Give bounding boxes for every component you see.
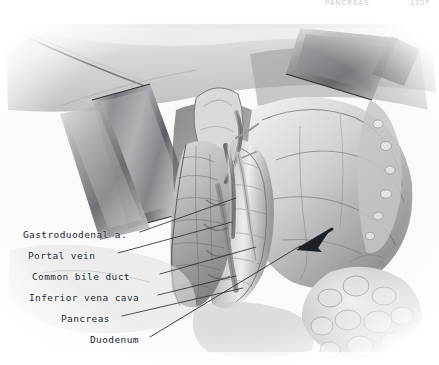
running-head-page-number: 1207 <box>410 0 430 7</box>
running-head-title: PANCREAS <box>325 0 369 7</box>
plate-top-fade <box>0 14 439 24</box>
label-common-bile-duct: Common bile duct <box>32 271 130 282</box>
label-inferior-vena-cava: Inferior vena cava <box>29 292 139 303</box>
running-head: PANCREAS 1207 <box>0 0 439 9</box>
label-gastroduodenal-artery: Gastroduodenal a. <box>23 229 127 240</box>
label-duodenum: Duodenum <box>90 334 139 345</box>
plate-bottom-fade <box>0 352 439 365</box>
label-pancreas: Pancreas <box>61 313 110 324</box>
illustration-page: PANCREAS 1207 <box>0 0 439 365</box>
label-portal-vein: Portal vein <box>28 250 95 261</box>
